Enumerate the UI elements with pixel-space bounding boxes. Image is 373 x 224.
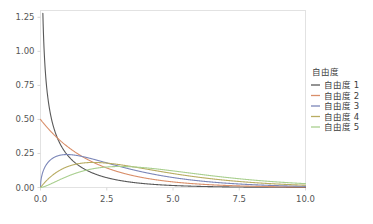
x-tick-label: 2.5 [100,194,114,204]
x-tick-label: 10.0 [296,194,315,204]
x-tick-label: 0.0 [34,194,48,204]
plot-area-frame [41,11,306,188]
legend-entry-label[interactable]: 自由度 5 [324,122,359,132]
chi-squared-density-chart: 0.000.250.500.751.001.25 0.02.55.07.510.… [0,0,373,224]
y-tick-label: 0.00 [16,183,35,193]
x-tick-label: 5.0 [166,194,180,204]
y-tick-label: 1.00 [16,46,35,56]
y-tick-label: 0.75 [16,80,35,90]
y-tick-label: 0.25 [16,148,35,158]
x-tick-label: 7.5 [232,194,246,204]
y-tick-label: 1.25 [16,12,35,22]
legend-entry-label[interactable]: 自由度 4 [324,112,359,122]
legend-entry-label[interactable]: 自由度 3 [324,101,359,111]
legend-entry-label[interactable]: 自由度 2 [324,91,359,101]
legend-title: 自由度 [312,67,339,77]
legend-entry-label[interactable]: 自由度 1 [324,80,359,90]
y-tick-label: 0.50 [16,114,35,124]
